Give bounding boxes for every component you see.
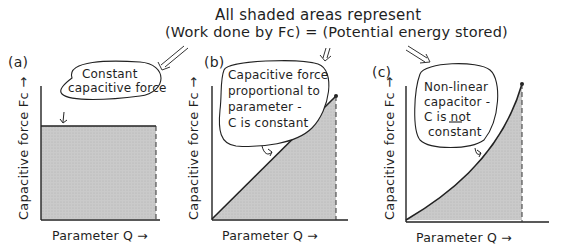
panel-a-ylabel: Capacitive force Fᴄ → [16, 77, 31, 220]
panel-a-xlabel: Parameter Q → [52, 228, 148, 243]
panel-b-bubble-line-4: C is constant [228, 116, 308, 130]
panel-a-bubble-line-2: capacitive force [68, 81, 167, 95]
shaded-area-a [41, 126, 156, 219]
panel-b-label: (b) [204, 54, 224, 70]
panel-b-bubble-line-1: Capacitive force [228, 68, 328, 82]
panel-c-bubble-line-4: constant [428, 125, 482, 139]
panel-b-ylabel: Capacitive force Fᴄ → [186, 77, 201, 220]
panel-b-xlabel: Parameter Q → [222, 228, 318, 243]
panel-c-bubble-line-2: capacitor - [424, 95, 490, 109]
panel-c-bubble-line-1: Non-linear [424, 80, 488, 94]
panel-c-bubble-line-3: C is not [424, 110, 471, 124]
panel-c-xlabel: Parameter Q → [416, 230, 512, 245]
panel-a-label: (a) [8, 54, 28, 70]
panel-c-ylabel: Capacitive force Fᴄ → [382, 77, 397, 220]
panel-b-bubble-line-3: parameter - [228, 100, 302, 114]
panel-a-bubble-line-1: Constant [82, 67, 138, 81]
panel-b-bubble-line-2: proportional to [228, 84, 320, 98]
